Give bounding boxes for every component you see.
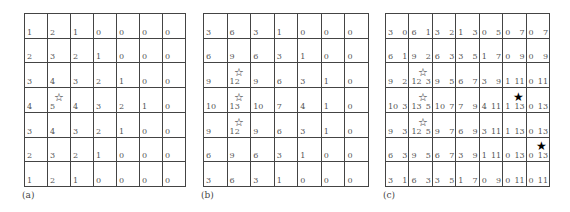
cell-value-left: 3 xyxy=(458,52,463,62)
open-star-icon: ☆ xyxy=(234,92,244,103)
grid-cell: 3 xyxy=(204,162,228,187)
cell-value: 3 xyxy=(277,151,282,161)
grid-cell: 09 xyxy=(527,39,550,64)
cell-value-left: 1 xyxy=(482,52,487,62)
cell-value-right: 13 xyxy=(538,127,548,137)
cell-value-left: 3 xyxy=(388,28,393,38)
grid-cell: 0 xyxy=(140,138,163,163)
cell-value: 4 xyxy=(73,102,78,112)
cell-value-left: 0 xyxy=(529,77,534,87)
grid-cell: 1 xyxy=(71,14,94,39)
grid-cell: 1 xyxy=(298,39,322,64)
cell-value: 1 xyxy=(300,52,305,62)
cell-value: 9 xyxy=(206,127,211,137)
grid-cell: 0 xyxy=(345,138,369,163)
cell-value: 0 xyxy=(347,176,352,186)
grid-cell: 3 xyxy=(298,63,322,88)
cell-value: 0 xyxy=(347,151,352,161)
grid-panel-c: 306132130507076192633517090992123☆956739… xyxy=(385,13,550,187)
cell-value-right: 9 xyxy=(473,127,478,137)
grid-cell: 17 xyxy=(480,39,503,64)
cell-value: 0 xyxy=(324,28,329,38)
cell-value-left: 10 xyxy=(435,102,445,112)
grid-cell: 1 xyxy=(25,162,48,187)
grid-cell: 011 xyxy=(527,63,550,88)
grid-cell: 63 xyxy=(409,162,432,187)
cell-value: 4 xyxy=(300,102,305,112)
grid-cell: 013 xyxy=(527,88,550,113)
cell-value: 0 xyxy=(119,176,124,186)
grid-cell: 0 xyxy=(140,162,163,187)
cell-value: 1 xyxy=(73,176,78,186)
cell-value-left: 0 xyxy=(505,52,510,62)
grid-cell: 0 xyxy=(322,14,346,39)
cell-value-right: 13 xyxy=(514,151,524,161)
grid-cell: 113 xyxy=(503,113,526,138)
grid-cell: 2 xyxy=(94,113,117,138)
cell-value: 0 xyxy=(142,77,147,87)
cell-value-right: 9 xyxy=(473,102,478,112)
cell-value: 1 xyxy=(324,127,329,137)
open-star-icon: ☆ xyxy=(234,117,244,128)
grid-cell: 2 xyxy=(71,138,94,163)
cell-value: 1 xyxy=(277,28,282,38)
grid-cell: 1 xyxy=(94,138,117,163)
cell-value: 2 xyxy=(96,77,101,87)
cell-value: 2 xyxy=(50,28,55,38)
caption-a: (a) xyxy=(22,190,34,200)
grid-cell: 113★ xyxy=(503,88,526,113)
cell-value-right: 11 xyxy=(514,77,524,87)
grid-cell: 013 xyxy=(527,113,550,138)
cell-value-left: 3 xyxy=(435,28,440,38)
grid-cell: 0 xyxy=(163,63,186,88)
grid-cell: 135☆ xyxy=(409,88,432,113)
cell-value: 0 xyxy=(347,127,352,137)
cell-value: 3 xyxy=(50,52,55,62)
cell-value: 0 xyxy=(142,176,147,186)
grid-panel-a: 12100002321000343210045☆4321034321002321… xyxy=(24,13,186,187)
grid-cell: 4 xyxy=(298,88,322,113)
cell-value-right: 9 xyxy=(519,52,524,62)
filled-star-icon: ★ xyxy=(536,141,547,152)
cell-value: 1 xyxy=(27,176,32,186)
cell-value: 1 xyxy=(96,52,101,62)
cell-value: 0 xyxy=(119,151,124,161)
grid-cell: 3 xyxy=(204,14,228,39)
grid-a: 12100002321000343210045☆4321034321002321… xyxy=(24,13,186,187)
cell-value-right: 9 xyxy=(543,52,548,62)
grid-cell: 2 xyxy=(48,14,71,39)
cell-value-left: 3 xyxy=(458,151,463,161)
cell-value: 0 xyxy=(96,176,101,186)
cell-value: 2 xyxy=(27,151,32,161)
grid-cell: 0 xyxy=(298,14,322,39)
grid-cell: 9 xyxy=(204,63,228,88)
grid-cell: 9 xyxy=(228,138,252,163)
cell-value: 1 xyxy=(27,28,32,38)
grid-cell: 0 xyxy=(163,138,186,163)
cell-value: 0 xyxy=(165,102,170,112)
cell-value: 4 xyxy=(50,127,55,137)
grid-cell: 013 xyxy=(503,138,526,163)
grid-cell: 1 xyxy=(94,39,117,64)
grid-cell: 5☆ xyxy=(48,88,71,113)
open-star-icon: ☆ xyxy=(418,117,428,128)
grid-cell: 111 xyxy=(480,138,503,163)
cell-value: 3 xyxy=(27,77,32,87)
grid-cell: 3 xyxy=(71,113,94,138)
grid-cell: 0 xyxy=(322,138,346,163)
grid-c: 306132130507076192633517090992123☆956739… xyxy=(385,13,550,187)
cell-value-left: 10 xyxy=(388,102,398,112)
grid-cell: 0 xyxy=(322,162,346,187)
cell-value-right: 7 xyxy=(473,77,478,87)
cell-value: 1 xyxy=(324,102,329,112)
grid-cell: 13 xyxy=(456,14,479,39)
grid-cell: 17 xyxy=(456,162,479,187)
open-star-icon: ☆ xyxy=(418,92,428,103)
grid-cell: 0 xyxy=(298,162,322,187)
grid-cell: 07 xyxy=(503,14,526,39)
cell-value: 6 xyxy=(277,77,282,87)
grid-cell: 4 xyxy=(25,88,48,113)
grid-cell: 10 xyxy=(204,88,228,113)
cell-value-left: 0 xyxy=(505,28,510,38)
grid-cell: 12☆ xyxy=(228,63,252,88)
